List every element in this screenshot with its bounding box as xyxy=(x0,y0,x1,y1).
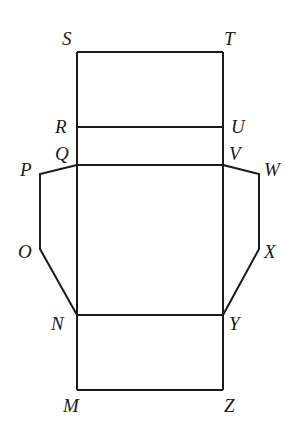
net-diagram: STRUQVPWOXNYMZ xyxy=(0,0,298,438)
vertex-label-x: X xyxy=(263,241,277,262)
vertex-label-n: N xyxy=(50,313,65,334)
vertex-label-s: S xyxy=(62,28,72,49)
vertex-label-o: O xyxy=(18,241,32,262)
left-flap-q-p-o-n xyxy=(40,165,77,315)
vertex-label-t: T xyxy=(224,28,236,49)
vertex-label-p: P xyxy=(19,159,32,180)
vertex-label-q: Q xyxy=(55,143,69,164)
vertex-label-y: Y xyxy=(229,313,242,334)
right-flap-v-w-x-y xyxy=(223,165,259,315)
vertex-label-v: V xyxy=(229,143,243,164)
vertex-label-r: R xyxy=(54,116,67,137)
vertex-label-z: Z xyxy=(224,395,235,416)
vertex-label-u: U xyxy=(231,116,246,137)
vertex-label-m: M xyxy=(62,395,80,416)
vertex-label-w: W xyxy=(264,159,282,180)
vertex-labels: STRUQVPWOXNYMZ xyxy=(18,28,282,416)
